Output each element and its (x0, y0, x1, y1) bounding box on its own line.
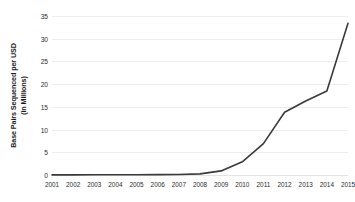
x-tick-label: 2009 (214, 181, 228, 189)
y-tick-label: 35 (34, 13, 48, 20)
x-tick-label: 2012 (277, 181, 291, 189)
x-tick-label: 2002 (66, 181, 80, 189)
chart-container: Base Pairs Sequenced per USD (in Million… (0, 0, 355, 202)
x-tick-label: 2015 (341, 181, 355, 189)
plot-area (52, 16, 348, 175)
x-tick-label: 2001 (45, 181, 59, 189)
y-axis-tick-labels: 05101520253035 (34, 16, 48, 175)
y-tick-label: 15 (34, 103, 48, 110)
y-axis-title-line-1: Base Pairs Sequenced per USD (9, 43, 19, 148)
x-tick-label: 2005 (129, 181, 143, 189)
series-line-path (52, 23, 348, 175)
y-tick-label: 10 (34, 126, 48, 133)
y-tick-label: 0 (34, 172, 48, 179)
x-tick-label: 2007 (172, 181, 186, 189)
x-tick-label: 2004 (108, 181, 122, 189)
y-tick-label: 30 (34, 35, 48, 42)
x-axis-tick-labels: 2001200220032004200520062007200820092010… (52, 181, 348, 191)
x-tick-label: 2011 (257, 181, 271, 189)
x-tick-label: 2010 (235, 181, 249, 189)
series-line-chart (52, 16, 348, 175)
x-tick-label: 2014 (320, 181, 334, 189)
y-tick-label: 25 (34, 58, 48, 65)
x-tick-label: 2008 (193, 181, 207, 189)
y-axis-title: Base Pairs Sequenced per USD (in Million… (0, 0, 36, 190)
y-tick-label: 5 (34, 149, 48, 156)
x-tick-label: 2006 (151, 181, 165, 189)
y-axis-title-line-2: (in Millions) (18, 43, 28, 148)
x-tick-label: 2003 (87, 181, 101, 189)
y-tick-label: 20 (34, 81, 48, 88)
x-tick-label: 2013 (299, 181, 313, 189)
